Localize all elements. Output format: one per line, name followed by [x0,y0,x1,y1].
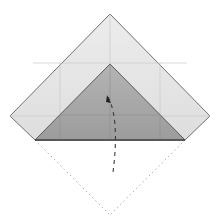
diagram-canvas [0,0,218,218]
dotted-outline-left [35,140,110,215]
dotted-outline-right [110,140,185,215]
origami-diagram [0,0,218,218]
